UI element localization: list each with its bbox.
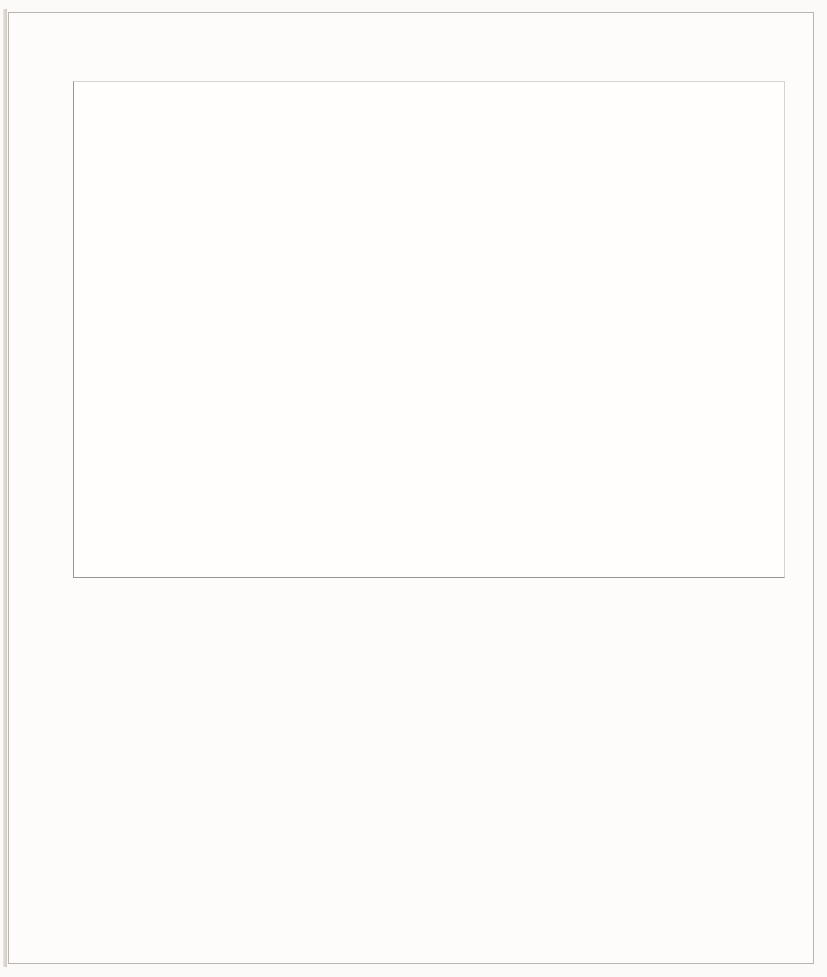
legend-asia — [135, 650, 415, 701]
legend-non-asia — [468, 650, 748, 701]
legend-asia-gradient — [135, 664, 415, 694]
chart-container — [0, 0, 806, 952]
legend-non-asia-gradient — [468, 664, 748, 694]
plot-area — [73, 81, 785, 578]
